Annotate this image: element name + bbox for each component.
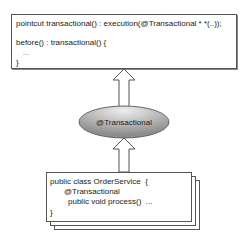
class-closing-brace: }	[50, 208, 53, 217]
before-advice-line: before() : transactional() {	[16, 38, 106, 47]
annotation-line: @Transactional	[64, 187, 120, 196]
pointcut-line: pointcut transactional() : execution(@Tr…	[16, 19, 222, 28]
method-line: public void process() ...	[68, 197, 152, 206]
aspect-code-box: pointcut transactional() : execution(@Tr…	[11, 14, 237, 69]
order-service-code-box: public class OrderService { @Transaction…	[46, 172, 192, 222]
upward-arrow-icon	[108, 137, 140, 173]
class-box-stack: public class OrderService { @Transaction…	[46, 172, 192, 222]
closing-brace-line: }	[16, 58, 19, 67]
class-declaration-line: public class OrderService {	[50, 177, 148, 186]
upward-arrow-icon	[108, 68, 140, 108]
annotation-label: @Transactional	[78, 105, 170, 139]
transactional-annotation-node: @Transactional	[78, 105, 170, 139]
ellipsis-line: ...	[16, 48, 29, 57]
